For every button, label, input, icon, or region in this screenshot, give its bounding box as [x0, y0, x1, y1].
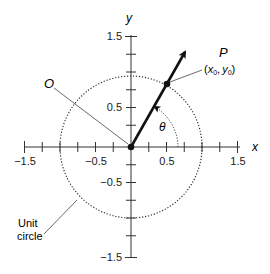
point-p: [164, 81, 171, 88]
y-axis-label: y: [125, 11, 133, 25]
unit-circle-label-line1: Unit: [18, 217, 38, 229]
point-coordinates: (x0,y0): [204, 63, 235, 76]
origin-label: O: [44, 76, 54, 91]
unit-circle-diagram: −1.5 −0.5 0.5 1.5 x 1.5 0.5 −0.5 −1.5 y …: [0, 0, 270, 274]
x-axis: −1.5 −0.5 0.5 1.5 x: [14, 140, 259, 167]
x-tick-label: −1.5: [14, 155, 36, 167]
origin-point: [128, 144, 135, 151]
ray-arrow: [131, 52, 185, 147]
x-axis-label: x: [251, 140, 259, 154]
origin-leader-line: [54, 88, 128, 144]
theta-label: θ: [159, 120, 166, 134]
y-tick-label: −0.5: [100, 176, 122, 188]
y-tick-label: 1.5: [107, 30, 122, 42]
point-label: P: [219, 45, 228, 60]
x-tick-label: −0.5: [85, 155, 107, 167]
y-tick-label: −1.5: [100, 251, 122, 263]
unit-circle-label-line2: circle: [17, 230, 43, 242]
x-tick-label: 1.5: [230, 155, 245, 167]
unit-circle-leader-line: [44, 200, 77, 234]
y-tick-label: 0.5: [107, 101, 122, 113]
x-tick-label: 0.5: [159, 155, 174, 167]
